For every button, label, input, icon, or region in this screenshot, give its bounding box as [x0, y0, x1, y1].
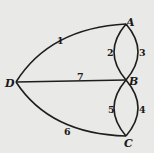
edge-label-4: 4: [139, 104, 146, 115]
edge-label-3: 3: [139, 47, 146, 58]
edge-label-6: 6: [64, 126, 71, 137]
edge-5: [114, 80, 126, 136]
edge-label-5: 5: [108, 104, 115, 115]
edge-4: [126, 80, 138, 136]
node-label-b: B: [128, 75, 138, 88]
node-label-c: C: [124, 137, 133, 150]
node-label-d: D: [4, 77, 15, 90]
node-label-a: A: [125, 16, 135, 29]
edge-label-7: 7: [77, 71, 84, 82]
edge-2: [114, 24, 126, 80]
edge-label-1: 1: [57, 35, 64, 46]
edge-label-2: 2: [107, 47, 114, 58]
graph-diagram: 1 2 3 4 5 6 7 A B C D: [0, 0, 154, 153]
edge-3: [126, 24, 138, 80]
edge-7: [16, 80, 126, 82]
